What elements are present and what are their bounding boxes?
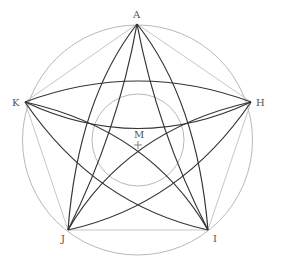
arc-H-J-lower xyxy=(68,102,251,230)
label-H: H xyxy=(256,97,265,108)
center-marker xyxy=(134,141,142,149)
arc-K-I-lower xyxy=(25,102,208,230)
arc-K-I-upper xyxy=(25,102,208,230)
arc-K-H-lower xyxy=(25,102,251,129)
arc-H-J-upper xyxy=(68,102,251,230)
label-K: K xyxy=(12,97,20,108)
label-I: I xyxy=(213,233,217,244)
pentagon-AHIJK xyxy=(25,24,251,230)
outer-circle xyxy=(23,25,253,255)
curved-star-arcs xyxy=(25,24,251,230)
label-A: A xyxy=(132,9,141,20)
pentagram-lens-diagram: A H I J K M xyxy=(0,0,282,264)
arc-K-H-upper xyxy=(25,81,251,102)
label-J: J xyxy=(60,233,65,244)
label-M: M xyxy=(134,129,144,140)
